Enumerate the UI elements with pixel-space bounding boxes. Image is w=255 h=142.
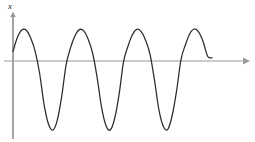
y-axis-label: x <box>8 1 12 11</box>
y-axis-arrowhead <box>10 12 16 18</box>
plot-canvas <box>0 0 255 142</box>
y-axis-group <box>10 12 16 140</box>
waveform-curve-group <box>13 29 212 130</box>
x-axis-group <box>4 58 250 65</box>
waveform-curve <box>13 29 212 130</box>
x-axis-arrowhead <box>243 58 250 65</box>
waveform-figure: x <box>0 0 255 142</box>
